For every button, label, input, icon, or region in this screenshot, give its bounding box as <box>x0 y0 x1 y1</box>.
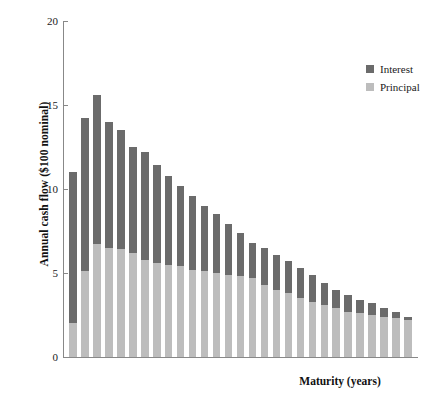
bar-segment-interest[interactable] <box>392 312 399 319</box>
bar-segment-principal[interactable] <box>368 315 375 357</box>
bar-segment-principal[interactable] <box>261 285 268 357</box>
y-axis-tick-label: 0 <box>32 351 58 363</box>
bar-segment-interest[interactable] <box>368 303 375 315</box>
bar-group[interactable] <box>177 186 184 357</box>
plot-area <box>64 21 418 357</box>
bar-segment-principal[interactable] <box>69 323 76 357</box>
bar-segment-interest[interactable] <box>153 165 160 262</box>
bar-segment-principal[interactable] <box>332 308 339 357</box>
bar-group[interactable] <box>297 268 304 357</box>
bar-segment-principal[interactable] <box>297 298 304 357</box>
y-axis-tick-label: 20 <box>32 15 58 27</box>
bar-segment-principal[interactable] <box>153 263 160 357</box>
bar-segment-principal[interactable] <box>117 249 124 357</box>
bar-group[interactable] <box>392 312 399 357</box>
bar-segment-interest[interactable] <box>177 186 184 267</box>
bar-group[interactable] <box>225 224 232 357</box>
bar-group[interactable] <box>237 233 244 357</box>
x-axis-line <box>63 357 418 358</box>
bar-segment-interest[interactable] <box>117 130 124 249</box>
bar-segment-principal[interactable] <box>165 265 172 357</box>
legend-item-label: Principal <box>380 81 420 93</box>
bar-segment-interest[interactable] <box>356 300 363 313</box>
legend-item[interactable]: Interest <box>366 61 420 77</box>
bar-segment-interest[interactable] <box>105 122 112 248</box>
bar-segment-principal[interactable] <box>392 318 399 357</box>
bar-group[interactable] <box>201 206 208 357</box>
bar-segment-interest[interactable] <box>380 308 387 316</box>
bar-segment-principal[interactable] <box>309 302 316 357</box>
bar-segment-principal[interactable] <box>81 271 88 357</box>
bar-segment-principal[interactable] <box>273 290 280 357</box>
bar-segment-interest[interactable] <box>237 233 244 277</box>
bar-group[interactable] <box>309 275 316 357</box>
bar-segment-interest[interactable] <box>189 196 196 270</box>
bar-segment-principal[interactable] <box>189 270 196 357</box>
bar-segment-interest[interactable] <box>165 176 172 265</box>
bar-group[interactable] <box>81 118 88 357</box>
bar-group[interactable] <box>141 152 148 357</box>
stacked-bar-chart-figure: 05101520 Annual cash flow ($100 nominal)… <box>0 0 440 407</box>
bar-segment-principal[interactable] <box>237 276 244 357</box>
y-axis-tick-label-wrap: 0 <box>0 351 58 363</box>
bar-segment-principal[interactable] <box>380 317 387 357</box>
bar-segment-interest[interactable] <box>93 95 100 245</box>
bar-segment-interest[interactable] <box>249 243 256 278</box>
bar-segment-principal[interactable] <box>105 248 112 357</box>
bar-group[interactable] <box>129 147 136 357</box>
bar-segment-interest[interactable] <box>141 152 148 260</box>
bar-group[interactable] <box>356 300 363 357</box>
bar-group[interactable] <box>189 196 196 357</box>
bar-segment-principal[interactable] <box>93 244 100 357</box>
y-axis-tick-label-wrap: 20 <box>0 15 58 27</box>
bar-group[interactable] <box>153 165 160 357</box>
bar-group[interactable] <box>105 122 112 357</box>
legend-swatch-icon <box>366 65 374 73</box>
bar-segment-principal[interactable] <box>249 278 256 357</box>
bar-segment-principal[interactable] <box>129 253 136 357</box>
bar-group[interactable] <box>321 283 328 357</box>
bar-group[interactable] <box>332 290 339 357</box>
bar-segment-interest[interactable] <box>81 118 88 271</box>
bar-segment-interest[interactable] <box>332 290 339 308</box>
legend-item-label: Interest <box>380 63 413 75</box>
bar-segment-interest[interactable] <box>261 248 268 285</box>
bar-group[interactable] <box>69 172 76 357</box>
bar-segment-principal[interactable] <box>177 266 184 357</box>
bar-segment-interest[interactable] <box>285 261 292 293</box>
bar-group[interactable] <box>285 261 292 357</box>
bar-segment-principal[interactable] <box>141 260 148 357</box>
bar-segment-principal[interactable] <box>321 305 328 357</box>
bar-group[interactable] <box>261 248 268 357</box>
bar-segment-interest[interactable] <box>344 295 351 312</box>
bar-segment-principal[interactable] <box>356 313 363 357</box>
bar-group[interactable] <box>380 308 387 357</box>
bar-group[interactable] <box>404 317 411 357</box>
bar-group[interactable] <box>93 95 100 357</box>
bar-segment-principal[interactable] <box>201 271 208 357</box>
y-axis-title: Annual cash flow ($100 nominal) <box>38 44 50 324</box>
bar-segment-interest[interactable] <box>69 172 76 323</box>
bar-segment-principal[interactable] <box>404 320 411 357</box>
bar-group[interactable] <box>344 295 351 357</box>
bar-segment-interest[interactable] <box>129 147 136 253</box>
bar-group[interactable] <box>273 255 280 357</box>
legend-swatch-icon <box>366 83 374 91</box>
bar-segment-interest[interactable] <box>201 206 208 272</box>
bar-segment-interest[interactable] <box>213 214 220 273</box>
bar-group[interactable] <box>213 214 220 357</box>
bar-group[interactable] <box>368 303 375 357</box>
bar-segment-interest[interactable] <box>309 275 316 302</box>
bar-segment-principal[interactable] <box>285 293 292 357</box>
bar-segment-interest[interactable] <box>273 255 280 290</box>
bar-group[interactable] <box>165 176 172 357</box>
bar-group[interactable] <box>117 130 124 357</box>
legend-item[interactable]: Principal <box>366 79 420 95</box>
bar-segment-principal[interactable] <box>213 273 220 357</box>
bar-segment-interest[interactable] <box>297 268 304 298</box>
bar-segment-interest[interactable] <box>225 224 232 274</box>
bar-group[interactable] <box>249 243 256 357</box>
bar-segment-principal[interactable] <box>225 275 232 357</box>
bar-segment-principal[interactable] <box>344 312 351 357</box>
bar-segment-interest[interactable] <box>321 283 328 305</box>
